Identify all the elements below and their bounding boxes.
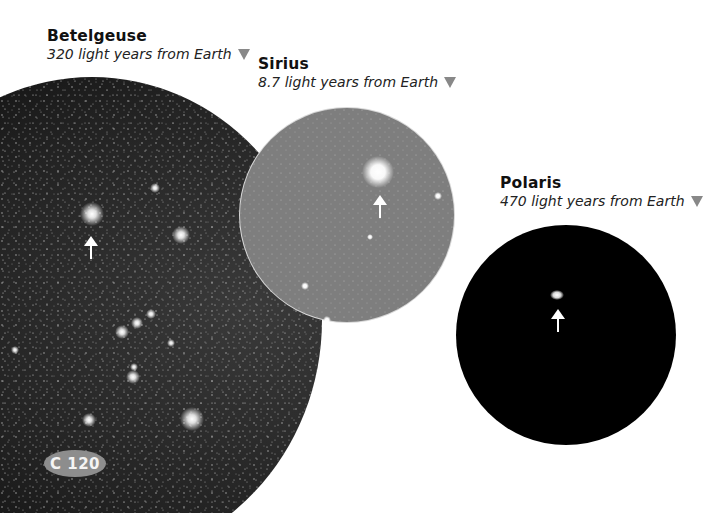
triangle-down-icon bbox=[691, 196, 703, 207]
triangle-down-icon bbox=[238, 49, 250, 60]
betelgeuse-label: Betelgeuse 320 light years from Earth bbox=[47, 27, 250, 63]
star-name: Betelgeuse bbox=[47, 27, 250, 45]
star-name: Sirius bbox=[258, 55, 456, 73]
sirius-label: Sirius 8.7 light years from Earth bbox=[258, 55, 456, 91]
star-distance: 320 light years from Earth bbox=[47, 45, 250, 63]
polaris-arrow-icon bbox=[551, 309, 565, 333]
page-code-badge: C 120 bbox=[44, 450, 106, 477]
star-distance: 470 light years from Earth bbox=[500, 192, 703, 210]
polaris-label: Polaris 470 light years from Earth bbox=[500, 174, 703, 210]
star-distance: 8.7 light years from Earth bbox=[258, 73, 456, 91]
triangle-down-icon bbox=[444, 77, 456, 88]
star-name: Polaris bbox=[500, 174, 703, 192]
